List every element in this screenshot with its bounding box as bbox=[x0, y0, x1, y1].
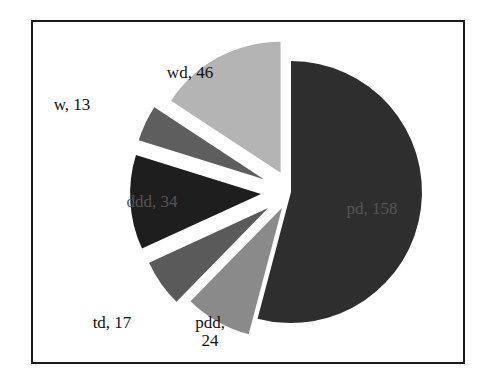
slice-label-pdd: pdd,24 bbox=[195, 313, 225, 350]
slice-label-wd: wd, 46 bbox=[167, 63, 213, 82]
slice-label-w: w, 13 bbox=[54, 95, 91, 114]
slice-label-ddd: ddd, 34 bbox=[127, 192, 179, 211]
pie-chart: pd, 158pdd,24td, 17ddd, 34w, 13wd, 46 bbox=[0, 0, 492, 388]
pie-slice-pd bbox=[258, 61, 422, 323]
slice-label-td: td, 17 bbox=[93, 313, 132, 332]
slice-label-pd: pd, 158 bbox=[347, 199, 398, 218]
